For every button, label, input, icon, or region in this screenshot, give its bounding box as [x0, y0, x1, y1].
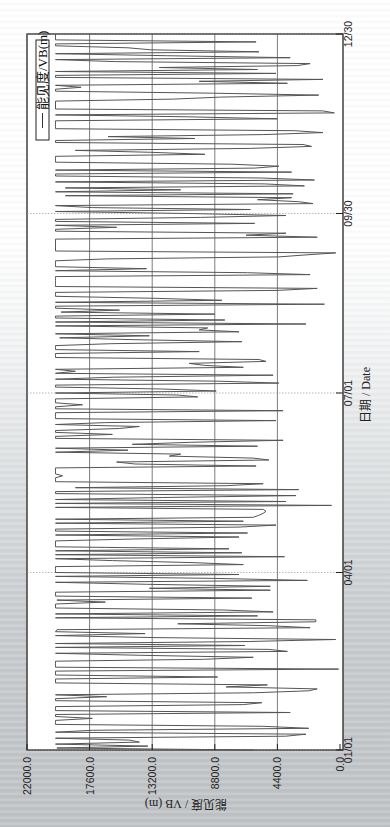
x-axis-title: 日期 / Date: [359, 367, 373, 423]
value-tick-label: 8800.0: [209, 757, 221, 789]
value-tick-label: 4400.0: [271, 757, 283, 789]
value-tick-label: 22000.0: [21, 757, 33, 795]
date-tick-label: 07/01: [342, 380, 354, 406]
value-tick-label: 13200.0: [146, 757, 158, 795]
y-axis-title: 能见度 / VB (m): [145, 797, 227, 812]
value-axis: 0.04400.08800.013200.017600.022000.0: [21, 744, 346, 795]
legend: 能见度/VB(m): [35, 31, 50, 140]
visibility-chart: 01/0104/0107/0109/3012/30 0.04400.08800.…: [0, 0, 390, 827]
value-tick-label: 0.0: [334, 757, 346, 772]
legend-label: 能见度/VB(m): [35, 31, 50, 110]
value-tick-label: 17600.0: [84, 757, 96, 795]
date-tick-label: 09/30: [342, 200, 354, 226]
date-tick-label: 12/30: [342, 21, 354, 47]
date-tick-label: 04/01: [342, 559, 354, 585]
